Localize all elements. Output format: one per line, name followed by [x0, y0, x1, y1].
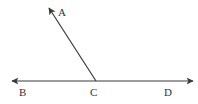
point-label-d: D — [164, 86, 172, 98]
point-label-c: C — [90, 86, 97, 98]
point-label-a: A — [58, 6, 66, 18]
ray-ca — [49, 8, 96, 81]
point-label-b: B — [19, 86, 26, 98]
angle-diagram: A B C D — [0, 0, 198, 104]
